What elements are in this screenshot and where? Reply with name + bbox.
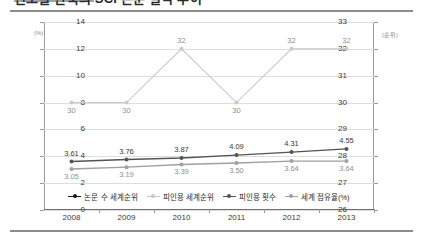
series-point — [235, 101, 239, 105]
right-axis-unit: (순위) — [382, 30, 398, 39]
legend-item[interactable]: 피인용 횟수 — [223, 191, 276, 202]
legend-label: 세계 점유율(%) — [301, 191, 350, 202]
footer-divider — [10, 230, 413, 232]
series-point — [235, 161, 239, 165]
right-axis-tick — [374, 76, 378, 77]
left-axis-tick — [40, 210, 44, 211]
chart-legend: 논문 수 세계순위피인용 세계순위피인용 횟수세계 점유율(%) — [44, 189, 374, 203]
legend-marker-icon — [68, 193, 81, 200]
x-axis-label: 2011 — [217, 213, 257, 222]
chart-page: 연도별 한국의 SCI 논문 실적 추이 (%) (순위) 0246810121… — [0, 0, 423, 239]
legend-item[interactable]: 피인용 세계순위 — [147, 191, 214, 202]
data-point-label: 4.31 — [275, 140, 309, 148]
right-axis-tick — [374, 103, 378, 104]
series-point — [70, 101, 74, 105]
series-line — [72, 49, 347, 103]
series-layer — [44, 22, 374, 210]
x-axis-label: 2010 — [162, 213, 202, 222]
data-point-label: 30 — [220, 107, 254, 115]
data-point-label: 3.64 — [330, 165, 364, 173]
data-point-label: 30 — [55, 107, 89, 115]
legend-label: 피인용 횟수 — [239, 191, 276, 202]
series-point — [345, 47, 349, 51]
right-axis-tick — [374, 49, 378, 50]
series-point — [125, 165, 129, 169]
x-axis-label: 2012 — [272, 213, 312, 222]
chart-title-strip: 연도별 한국의 SCI 논문 실적 추이 — [0, 0, 423, 9]
right-axis-tick — [374, 156, 378, 157]
series-point — [290, 159, 294, 163]
legend-marker-icon — [223, 193, 236, 200]
series-point — [180, 162, 184, 166]
series-point — [70, 160, 74, 164]
data-point-label: 4.09 — [220, 143, 254, 151]
series-point — [125, 158, 129, 162]
legend-label: 피인용 세계순위 — [163, 191, 214, 202]
series-point — [290, 47, 294, 51]
legend-item[interactable]: 세계 점유율(%) — [285, 191, 350, 202]
data-point-label: 32 — [165, 37, 199, 45]
data-point-label: 3.50 — [220, 167, 254, 175]
data-point-label: 3.05 — [55, 173, 89, 181]
legend-marker-icon — [285, 193, 298, 200]
series-point — [70, 167, 74, 171]
left-axis-unit: (%) — [34, 30, 43, 36]
data-point-label: 30 — [110, 107, 144, 115]
x-axis-tick — [374, 209, 375, 213]
data-point-label: 3.76 — [110, 148, 144, 156]
right-axis-tick — [374, 22, 378, 23]
legend-item[interactable]: 논문 수 세계순위 — [68, 191, 137, 202]
header-divider — [10, 10, 413, 12]
data-point-label: 3.19 — [110, 171, 144, 179]
data-point-label: 3.61 — [55, 150, 89, 158]
page-title: 연도별 한국의 SCI 논문 실적 추이 — [14, 0, 202, 7]
series-point — [235, 153, 239, 157]
right-axis-tick — [374, 183, 378, 184]
data-point-label: 3.39 — [165, 168, 199, 176]
series-point — [345, 159, 349, 163]
legend-label: 논문 수 세계순위 — [84, 191, 137, 202]
data-point-label: 3.64 — [275, 165, 309, 173]
series-point — [180, 47, 184, 51]
data-point-label: 32 — [275, 37, 309, 45]
data-point-label: 4.55 — [330, 137, 364, 145]
x-axis-label: 2008 — [52, 213, 92, 222]
series-point — [345, 147, 349, 151]
right-axis-tick — [374, 129, 378, 130]
series-point — [125, 101, 129, 105]
data-point-label: 32 — [330, 37, 364, 45]
series-point — [180, 156, 184, 160]
series-point — [290, 150, 294, 154]
x-axis-label: 2013 — [327, 213, 367, 222]
data-point-label: 3.87 — [165, 146, 199, 154]
legend-marker-icon — [147, 193, 160, 200]
x-axis-label: 2009 — [107, 213, 147, 222]
